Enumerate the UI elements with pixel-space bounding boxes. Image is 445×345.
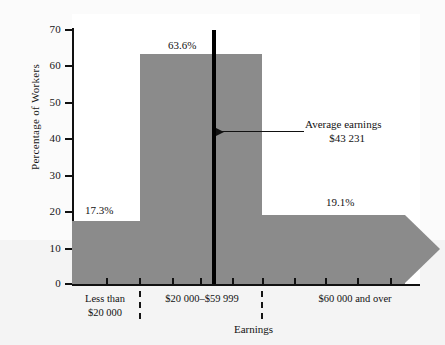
bar-20000-59999 bbox=[140, 54, 262, 284]
y-tick-50 bbox=[65, 102, 72, 104]
x-category-label-3-line1: $60 000 and over bbox=[300, 292, 410, 306]
annotation-arrow-shaft bbox=[222, 131, 304, 132]
y-tick-label-20: 20 bbox=[37, 205, 61, 217]
y-axis-title-wrap: Percentage of Workers bbox=[25, 37, 43, 197]
y-tick-40 bbox=[65, 138, 72, 140]
class-separator-right bbox=[261, 291, 263, 324]
y-tick-60 bbox=[65, 65, 72, 67]
annotation-arrow-head-icon bbox=[216, 128, 224, 136]
x-category-label-1: Less than $20 000 bbox=[74, 292, 136, 319]
x-category-label-1-line2: $20 000 bbox=[74, 306, 136, 320]
bar-60000-and-over bbox=[262, 215, 405, 284]
x-tick-3 bbox=[172, 278, 174, 285]
y-tick-0 bbox=[65, 283, 72, 285]
x-tick-4 bbox=[200, 278, 202, 285]
x-category-label-2-line1: $20 000–$59 999 bbox=[148, 292, 256, 306]
bar-less-than-20000 bbox=[72, 221, 140, 284]
y-tick-label-70: 70 bbox=[37, 23, 61, 35]
dash-segment bbox=[261, 291, 263, 297]
x-tick-10 bbox=[390, 278, 392, 285]
annotation-average-earnings-line2: $43 231 bbox=[305, 132, 389, 146]
x-axis-title: Earnings bbox=[234, 323, 273, 335]
bar-label-low: 17.3% bbox=[85, 204, 113, 216]
x-category-label-3: $60 000 and over bbox=[300, 292, 410, 306]
y-tick-10 bbox=[65, 248, 72, 250]
x-category-label-2: $20 000–$59 999 bbox=[148, 292, 256, 306]
annotation-average-earnings-line1: Average earnings bbox=[305, 118, 381, 132]
y-tick-label-0: 0 bbox=[37, 277, 61, 289]
x-tick-7 bbox=[294, 278, 296, 285]
x-category-label-1-line1: Less than bbox=[74, 292, 136, 306]
dash-segment bbox=[139, 291, 141, 297]
dash-segment bbox=[261, 313, 263, 319]
open-ended-arrow-icon bbox=[405, 215, 440, 283]
x-tick-8 bbox=[325, 278, 327, 285]
x-tick-9 bbox=[357, 278, 359, 285]
x-tick-1 bbox=[106, 278, 108, 285]
x-tick-5 bbox=[232, 278, 234, 285]
x-axis-line bbox=[72, 284, 420, 286]
earnings-histogram: 70 60 50 40 30 20 10 0 Percentage of Wor… bbox=[0, 0, 445, 345]
dash-segment bbox=[139, 313, 141, 319]
class-separator-left bbox=[139, 291, 141, 324]
y-tick-20 bbox=[65, 211, 72, 213]
bar-label-middle: 63.6% bbox=[168, 39, 196, 51]
y-axis-title: Percentage of Workers bbox=[29, 64, 41, 170]
x-tick-2 bbox=[139, 278, 141, 285]
average-earnings-marker-line bbox=[212, 30, 216, 284]
x-tick-6 bbox=[262, 278, 264, 285]
y-tick-70 bbox=[65, 29, 72, 31]
dash-segment bbox=[261, 302, 263, 308]
bar-label-high: 19.1% bbox=[326, 196, 354, 208]
dash-segment bbox=[139, 302, 141, 308]
y-tick-label-10: 10 bbox=[37, 242, 61, 254]
y-tick-30 bbox=[65, 175, 72, 177]
